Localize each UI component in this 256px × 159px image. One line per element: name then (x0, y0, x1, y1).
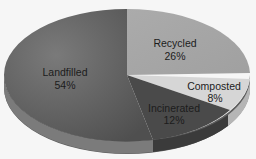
label-composted-pct: 8% (207, 92, 222, 104)
label-recycled-name: Recycled (153, 37, 196, 49)
label-landfilled-name: Landfilled (43, 66, 88, 78)
label-incinerated-pct: 12% (163, 114, 184, 126)
label-landfilled-pct: 54% (54, 79, 75, 91)
label-incinerated-name: Incinerated (148, 102, 200, 114)
pie-slices (4, 9, 250, 141)
pie-chart: Landfilled 54% Recycled 26% Composted 8%… (0, 0, 256, 159)
label-composted-name: Composted (187, 80, 241, 92)
label-recycled-pct: 26% (164, 50, 185, 62)
